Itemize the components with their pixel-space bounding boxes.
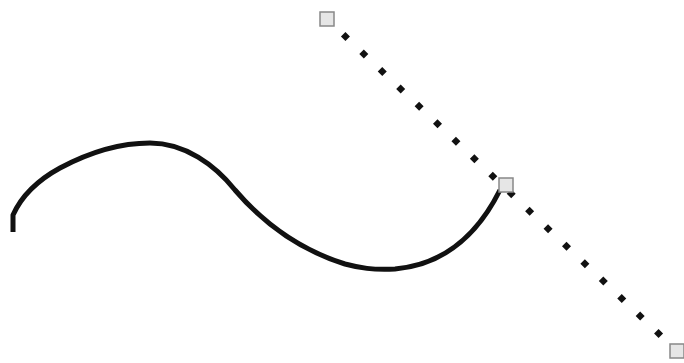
handle-group — [320, 12, 684, 358]
bezier-canvas[interactable] — [0, 0, 684, 363]
bezier-curve-path[interactable] — [13, 143, 500, 269]
anchor-point[interactable] — [499, 178, 513, 192]
handle-line-dot — [341, 32, 350, 41]
handle-line-dot — [599, 277, 608, 286]
handle-line-dot — [562, 242, 571, 251]
handle-line-dot — [433, 119, 442, 128]
handle-line-dot — [470, 154, 479, 163]
handle-line-dot — [636, 312, 645, 321]
handle-line-dot — [654, 329, 663, 338]
handle-line-dot — [359, 49, 368, 58]
handle-line-dot — [396, 84, 405, 93]
control-handle-end[interactable] — [670, 344, 684, 358]
handle-line-dot — [488, 172, 497, 181]
handle-line-dot — [378, 67, 387, 76]
handle-line-dot — [617, 294, 626, 303]
handle-line-dot — [451, 137, 460, 146]
handle-line-dot — [415, 102, 424, 111]
handle-line-dot — [525, 207, 534, 216]
handle-line-dot — [580, 259, 589, 268]
handle-line-dot — [544, 224, 553, 233]
control-handle-start[interactable] — [320, 12, 334, 26]
